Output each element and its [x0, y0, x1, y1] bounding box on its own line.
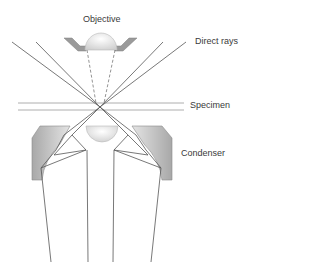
direct-rays-label: Direct rays [195, 36, 238, 46]
condenser-lens [86, 126, 118, 142]
specimen-label: Specimen [190, 100, 230, 110]
objective-label: Objective [83, 14, 121, 24]
objective-acceptance-cone [87, 50, 115, 103]
objective-lens [85, 33, 117, 50]
condenser-label: Condenser [181, 148, 225, 158]
